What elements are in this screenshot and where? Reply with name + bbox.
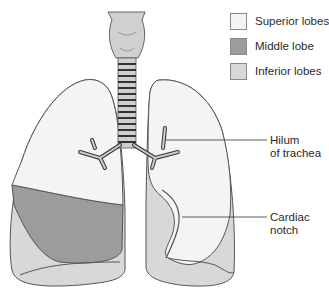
- hilum-label-line1: Hilum: [270, 134, 321, 147]
- legend-label: Inferior lobes: [255, 65, 321, 77]
- hilum-label-line2: of trachea: [270, 147, 321, 160]
- cardiac-label-line1: Cardiac: [270, 211, 310, 224]
- cardiac-label-line2: notch: [270, 224, 310, 237]
- superior-swatch: [230, 13, 247, 30]
- right-superior-lobe: [12, 80, 123, 206]
- legend-label: Middle lobe: [255, 40, 314, 52]
- right-lung: [10, 80, 125, 287]
- middle-swatch: [230, 38, 247, 55]
- legend: Superior lobes Middle lobe Inferior lobe…: [230, 10, 329, 85]
- inferior-swatch: [230, 63, 247, 80]
- legend-item-superior: Superior lobes: [230, 10, 329, 32]
- hilum-callout: Hilum of trachea: [270, 134, 321, 160]
- legend-item-middle: Middle lobe: [230, 35, 329, 57]
- legend-item-inferior: Inferior lobes: [230, 60, 329, 82]
- legend-label: Superior lobes: [255, 15, 329, 27]
- cardiac-callout: Cardiac notch: [270, 211, 310, 237]
- left-lung: [146, 80, 235, 286]
